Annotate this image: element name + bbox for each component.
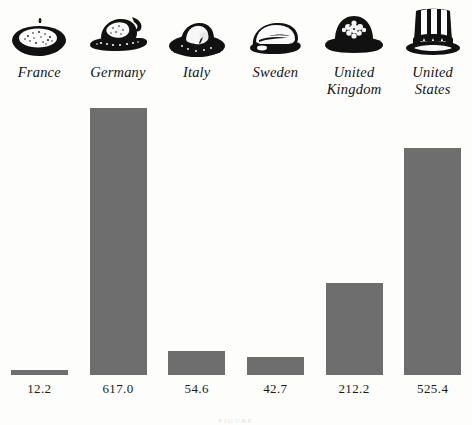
bar-slot-united-kingdom — [315, 108, 394, 375]
country-label-united-states: United States — [393, 62, 472, 98]
bar-slot-france — [0, 108, 79, 375]
fedora-icon — [157, 0, 236, 62]
bar-united-states — [404, 148, 461, 375]
uncle-sam-top-hat-icon — [393, 0, 472, 62]
country-label-france: France — [0, 62, 79, 81]
bar-slot-sweden — [236, 108, 315, 375]
value-label-sweden: 42.7 — [236, 381, 315, 397]
tyrolean-hat-icon — [79, 0, 158, 62]
chart-column-united-states: United States 525.4 — [393, 0, 472, 400]
flat-cap-icon — [236, 0, 315, 62]
chart-columns: France 12.2 — [0, 0, 472, 400]
value-label-italy: 54.6 — [157, 381, 236, 397]
value-label-united-kingdom: 212.2 — [315, 381, 394, 397]
bar-united-kingdom — [326, 283, 383, 375]
bowler-hat-icon — [315, 0, 394, 62]
bar-sweden — [247, 357, 304, 375]
bar-italy — [168, 351, 225, 375]
bar-slot-united-states — [393, 108, 472, 375]
beret-icon — [0, 0, 79, 62]
value-label-united-states: 525.4 — [393, 381, 472, 397]
chart-column-italy: Italy 54.6 — [157, 0, 236, 400]
bar-france — [11, 370, 68, 375]
figure-caption: FIGURE — [0, 418, 472, 425]
value-label-france: 12.2 — [0, 381, 79, 397]
chart-column-united-kingdom: United Kingdom 212.2 — [315, 0, 394, 400]
bar-slot-germany — [79, 108, 158, 375]
chart-column-sweden: Sweden 42.7 — [236, 0, 315, 400]
country-label-germany: Germany — [79, 62, 158, 81]
bar-slot-italy — [157, 108, 236, 375]
country-label-united-kingdom: United Kingdom — [315, 62, 394, 98]
bar-germany — [90, 108, 147, 375]
bar-chart-figure: France 12.2 — [0, 0, 472, 425]
value-label-germany: 617.0 — [79, 381, 158, 397]
chart-column-germany: Germany 617.0 — [79, 0, 158, 400]
country-label-italy: Italy — [157, 62, 236, 81]
country-label-sweden: Sweden — [236, 62, 315, 81]
chart-column-france: France 12.2 — [0, 0, 79, 400]
